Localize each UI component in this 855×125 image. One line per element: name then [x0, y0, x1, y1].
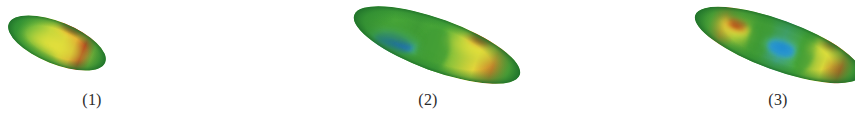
- panel-2-label: (2): [388, 92, 468, 108]
- ellipsoid-body-2: [338, 0, 528, 100]
- panel-1-label: (1): [52, 92, 132, 108]
- ellipsoid-body-1: [0, 4, 113, 82]
- ellipsoid-body-3: [687, 0, 855, 99]
- ellipsoid-svg-3: [570, 0, 855, 92]
- ellipsoid-surface-2: [285, 0, 570, 92]
- ellipsoid-svg-1: [0, 0, 285, 92]
- panel-1: (1): [0, 0, 285, 125]
- ellipsoid-surface-1: [0, 0, 285, 92]
- panel-3: (3): [570, 0, 855, 125]
- ellipsoid-svg-2: [285, 0, 570, 92]
- figure-three-eigenmode-ellipsoids: (1): [0, 0, 855, 125]
- ellipsoid-surface-3: [570, 0, 855, 92]
- panel-2: (2): [285, 0, 570, 125]
- panel-3-label: (3): [738, 92, 818, 108]
